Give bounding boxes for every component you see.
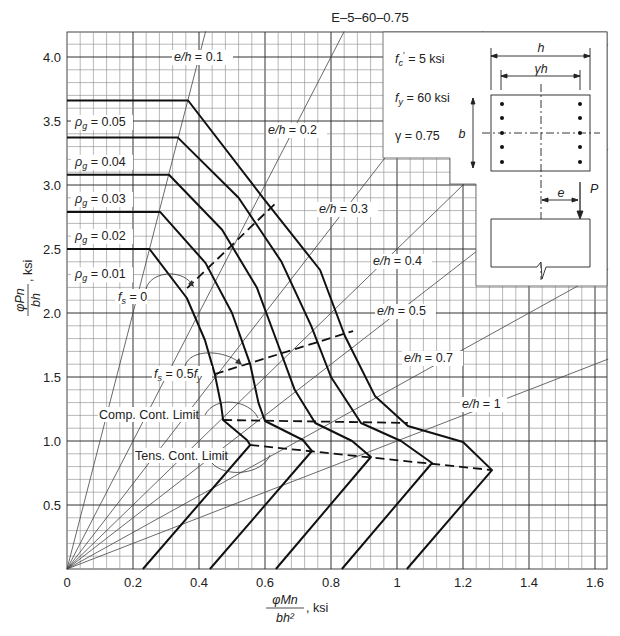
- dim-gamma-h: γh: [534, 62, 547, 76]
- svg-text:ρg = 0.05: ρg = 0.05: [74, 115, 126, 131]
- svg-text:0.6: 0.6: [256, 575, 274, 590]
- svg-text:e/h = 0.1: e/h = 0.1: [174, 50, 223, 64]
- svg-text:0.2: 0.2: [124, 575, 142, 590]
- svg-text:φPn: φPn: [13, 288, 27, 311]
- dim-b: b: [459, 127, 466, 141]
- svg-text:1.5: 1.5: [43, 370, 61, 385]
- svg-text:γ = 0.75: γ = 0.75: [395, 129, 440, 143]
- svg-text:e/h = 0.4: e/h = 0.4: [373, 254, 422, 268]
- chart-title: E–5–60–0.75: [331, 10, 408, 25]
- svg-text:e/h = 0.2: e/h = 0.2: [268, 123, 317, 137]
- svg-text:fc′ = 5 ksi: fc′ = 5 ksi: [395, 50, 445, 68]
- svg-text:fy = 60 ksi: fy = 60 ksi: [395, 91, 450, 107]
- svg-text:0: 0: [63, 575, 70, 590]
- svg-text:3.5: 3.5: [43, 114, 61, 129]
- load-P: P: [590, 182, 599, 196]
- svg-text:0.5: 0.5: [43, 498, 61, 513]
- svg-text:e/h = 0.3: e/h = 0.3: [319, 202, 368, 216]
- svg-text:fs = 0.5fy: fs = 0.5fy: [154, 367, 202, 383]
- svg-text:2.0: 2.0: [43, 306, 61, 321]
- svg-text:e/h = 0.7: e/h = 0.7: [404, 351, 453, 365]
- svg-text:1.4: 1.4: [520, 575, 538, 590]
- comp-cont-limit-label: Comp. Cont. Limit: [99, 408, 200, 422]
- svg-text:ρg = 0.04: ρg = 0.04: [74, 155, 126, 171]
- x-axis-label: φMn bh² , ksi: [266, 593, 328, 625]
- dim-h: h: [538, 41, 545, 55]
- svg-text:2.5: 2.5: [43, 242, 61, 257]
- svg-text:0.4: 0.4: [190, 575, 208, 590]
- svg-text:bh²: bh²: [276, 611, 295, 625]
- y-axis-label: φPn bh , ksi: [13, 260, 43, 316]
- svg-text:ρg = 0.01: ρg = 0.01: [74, 267, 126, 283]
- svg-text:1: 1: [393, 575, 400, 590]
- svg-text:4.0: 4.0: [43, 50, 61, 65]
- svg-text:ρg = 0.02: ρg = 0.02: [74, 229, 126, 245]
- svg-text:1.2: 1.2: [454, 575, 472, 590]
- tens-cont-limit-label: Tens. Cont. Limit: [135, 449, 229, 463]
- svg-text:1.0: 1.0: [43, 434, 61, 449]
- svg-text:, ksi: , ksi: [306, 601, 328, 615]
- interaction-diagram: 00.20.40.60.811.21.41.60.51.01.52.02.53.…: [0, 0, 620, 636]
- svg-text:0.8: 0.8: [322, 575, 340, 590]
- svg-text:ρg = 0.03: ρg = 0.03: [74, 192, 126, 208]
- svg-text:, ksi: , ksi: [21, 260, 35, 282]
- svg-text:3.0: 3.0: [43, 178, 61, 193]
- svg-text:φMn: φMn: [272, 593, 298, 607]
- dim-e: e: [558, 186, 565, 200]
- svg-text:e/h = 0.5: e/h = 0.5: [377, 304, 426, 318]
- svg-text:1.6: 1.6: [586, 575, 604, 590]
- svg-text:bh: bh: [29, 293, 43, 307]
- svg-text:e/h = 1: e/h = 1: [462, 397, 501, 411]
